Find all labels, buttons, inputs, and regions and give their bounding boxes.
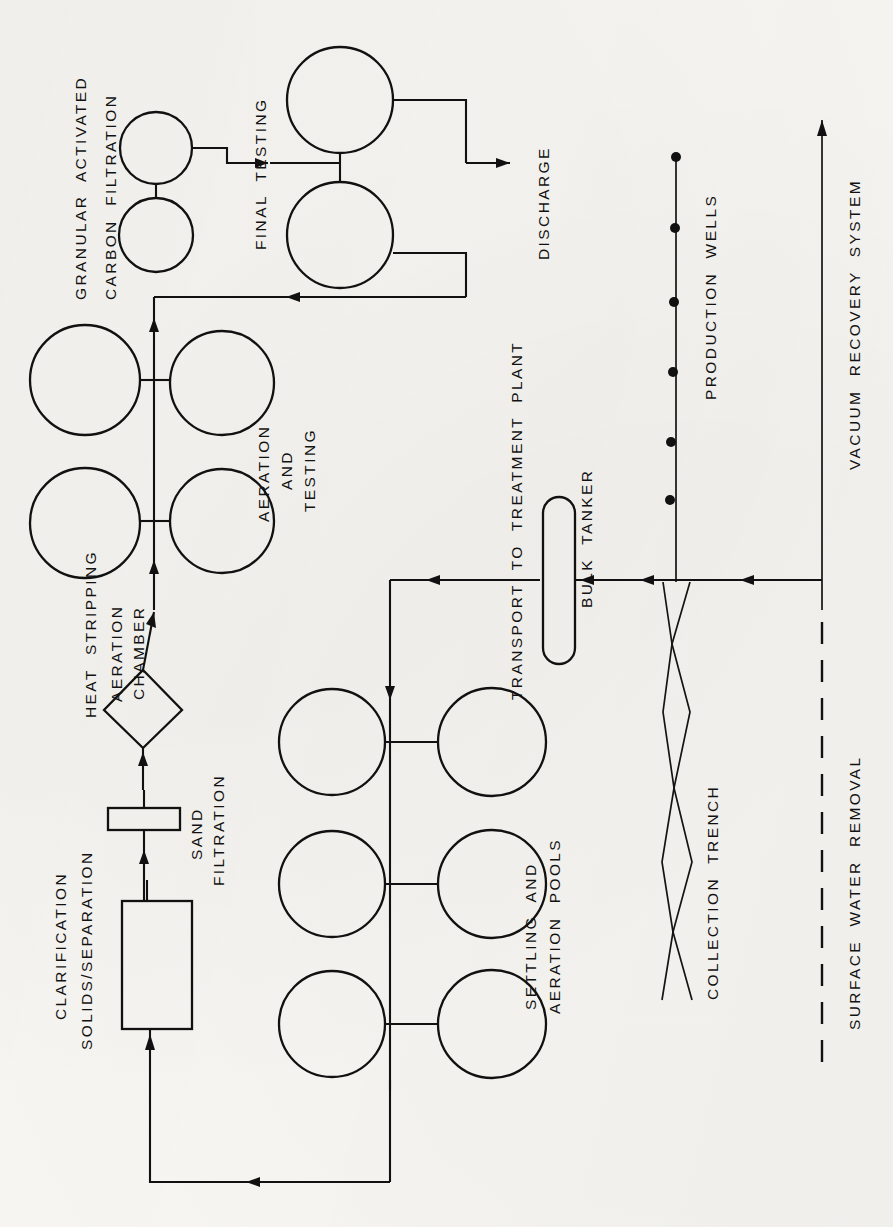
settling-pool-6 bbox=[279, 971, 385, 1077]
production-well-1 bbox=[671, 152, 681, 162]
label-bulk-tanker: BULK TANKER bbox=[578, 469, 595, 608]
process-flow-diagram: GRANULAR ACTIVATED CARBON FILTRATION FIN… bbox=[0, 0, 893, 1227]
label-and: AND bbox=[278, 450, 295, 490]
label-aeration-pools: AERATION POOLS bbox=[546, 838, 563, 1014]
gac-vessel-2 bbox=[119, 198, 193, 272]
recycle-loop-line bbox=[150, 1088, 390, 1182]
production-well-4 bbox=[668, 367, 678, 377]
stage-collection-trench bbox=[662, 582, 692, 1000]
label-carbon-filtration: CARBON FILTRATION bbox=[102, 94, 119, 300]
discharge-arrowhead bbox=[496, 158, 510, 168]
stage-vacuum-recovery-system bbox=[817, 120, 827, 610]
label-surface-water-removal: SURFACE WATER REMOVAL bbox=[846, 755, 863, 1030]
final-testing-lower-outlet bbox=[393, 253, 466, 297]
label-aeration-chamber-line2: CHAMBER bbox=[130, 606, 147, 700]
label-filtration: FILTRATION bbox=[210, 774, 227, 886]
stage-final-testing bbox=[154, 47, 510, 302]
label-production-wells: PRODUCTION WELLS bbox=[702, 194, 719, 400]
collection-header-arrowhead-right bbox=[740, 575, 754, 585]
sand-filter-box bbox=[108, 808, 180, 830]
settling-pool-1 bbox=[438, 688, 546, 796]
label-clarification: CLARIFICATION bbox=[52, 872, 69, 1020]
stage-sand-filtration bbox=[108, 790, 180, 900]
label-granular-activated: GRANULAR ACTIVATED bbox=[72, 76, 89, 300]
label-sand: SAND bbox=[188, 807, 205, 860]
clarifier-inlet-arrowhead bbox=[145, 1034, 155, 1050]
collection-header bbox=[622, 575, 822, 585]
label-collection-trench: COLLECTION TRENCH bbox=[704, 785, 721, 1000]
label-settling-and: SETTLING AND bbox=[522, 863, 539, 1010]
label-final-testing: FINAL TESTING bbox=[252, 98, 269, 250]
final-testing-recycle-arrowhead bbox=[286, 292, 300, 302]
settling-pool-5 bbox=[279, 831, 385, 937]
aeration-tank-2 bbox=[170, 331, 274, 435]
stage-clarification-solids-separation bbox=[122, 880, 192, 1088]
production-well-6 bbox=[665, 495, 675, 505]
final-testing-vessel-2 bbox=[287, 182, 393, 288]
label-vacuum-recovery-system: VACUUM RECOVERY SYSTEM bbox=[846, 179, 863, 470]
recycle-loop-arrowhead bbox=[246, 1177, 260, 1187]
label-aeration-chamber-line1: AERATION bbox=[108, 605, 125, 702]
bulk-tanker-capsule bbox=[543, 497, 575, 664]
stage-settling-and-aeration-pools bbox=[279, 580, 546, 1090]
final-testing-upper-outlet bbox=[393, 100, 466, 163]
collection-trench-strand-b bbox=[672, 582, 692, 1000]
settling-pool-4 bbox=[279, 689, 385, 795]
aeration-trunk-arrowhead-lower bbox=[149, 560, 159, 574]
stage-aeration-and-testing bbox=[30, 297, 274, 610]
recycle-return-loop bbox=[150, 1080, 390, 1187]
settling-trunk-arrowhead bbox=[385, 686, 395, 700]
collection-header-arrowhead-mid bbox=[640, 575, 654, 585]
label-transport-to-treatment-plant: TRANSPORT TO TREATMENT PLANT bbox=[508, 341, 525, 700]
aeration-trunk-arrowhead-upper bbox=[149, 318, 159, 332]
production-well-3 bbox=[669, 297, 679, 307]
label-discharge: DISCHARGE bbox=[535, 146, 552, 260]
transport-feed-arrowhead bbox=[426, 575, 440, 585]
label-aeration: AERATION bbox=[255, 425, 272, 522]
stage-granular-activated-carbon-filtration bbox=[119, 112, 268, 272]
label-testing: TESTING bbox=[301, 428, 318, 512]
label-solids-separation: SOLIDS/SEPARATION bbox=[78, 850, 95, 1050]
sand-filter-inlet-arrowhead bbox=[139, 850, 149, 864]
label-heat-stripping: HEAT STRIPPING bbox=[82, 550, 99, 718]
aeration-tank-1 bbox=[30, 325, 140, 435]
gac-vessel-1 bbox=[120, 112, 192, 184]
vacuum-recovery-arrowhead bbox=[817, 120, 827, 136]
stage-production-wells bbox=[665, 152, 681, 582]
chamber-inlet-arrowhead bbox=[138, 752, 148, 766]
clarifier-box bbox=[122, 901, 192, 1029]
final-testing-vessel-1 bbox=[287, 47, 393, 153]
flow-diagram-canvas: GRANULAR ACTIVATED CARBON FILTRATION FIN… bbox=[0, 0, 893, 1227]
production-well-5 bbox=[666, 437, 676, 447]
production-well-2 bbox=[670, 223, 680, 233]
